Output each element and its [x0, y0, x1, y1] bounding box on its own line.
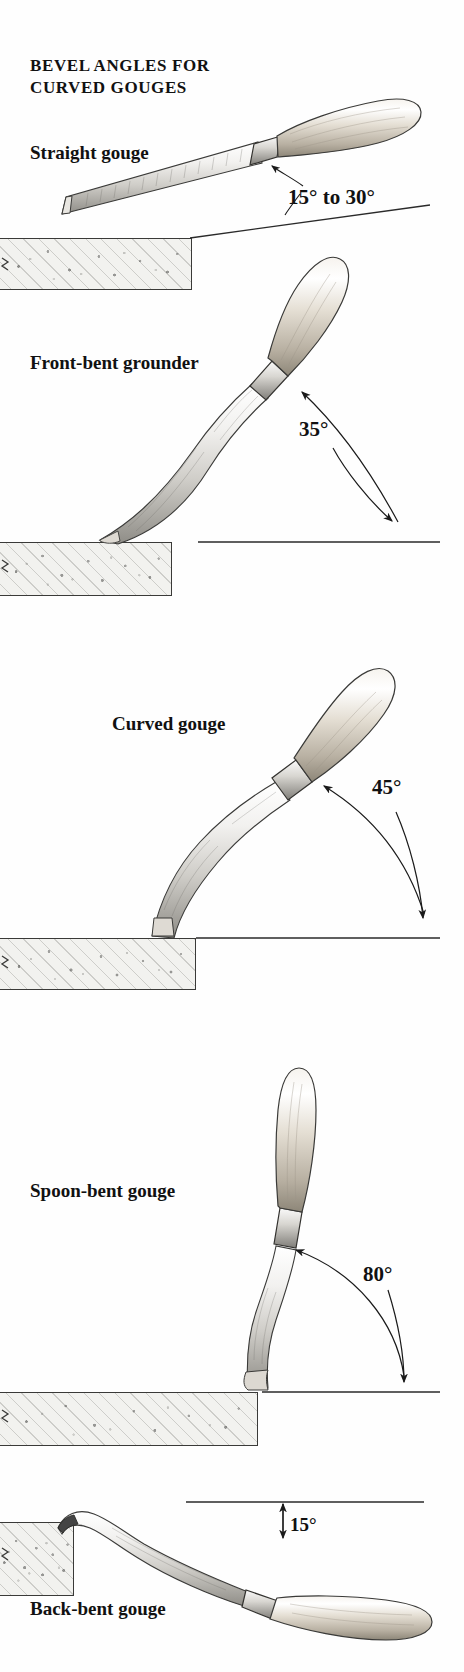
angle-arc-3: [324, 786, 424, 914]
workpiece-block-1: [0, 238, 192, 290]
workpiece-block-4: [0, 1392, 258, 1446]
figure-page: BEVEL ANGLES FOR CURVED GOUGES Straight …: [0, 0, 464, 1672]
blade-hatching-3: [164, 792, 276, 916]
figure-title-line1: BEVEL ANGLES FOR: [30, 55, 210, 77]
tool-spoon-bent-gouge: [244, 1068, 440, 1392]
blade-hatching-4: [254, 1288, 276, 1364]
ferrule-2: [250, 361, 288, 400]
tool-front-bent-grounder: [100, 257, 440, 544]
handle-4: [276, 1068, 316, 1212]
break-symbols: [2, 258, 8, 1560]
angle-straight-gouge: 15° to 30°: [288, 185, 375, 210]
workpiece-block-3: [0, 938, 196, 990]
figure-title-line2: CURVED GOUGES: [30, 77, 210, 99]
blade-hatching-2: [128, 390, 258, 531]
angle-curved-gouge: 45°: [372, 775, 401, 800]
cutting-edge-3: [152, 918, 174, 936]
label-spoon-bent-gouge: Spoon-bent gouge: [30, 1180, 175, 1202]
cutting-edge-4: [244, 1370, 268, 1390]
ferrule-4: [274, 1208, 302, 1248]
angle-arc-2: [302, 392, 398, 522]
handle-1: [277, 99, 421, 157]
handle-grain-1: [290, 108, 408, 149]
blade-2: [100, 384, 268, 544]
handle-grain-5: [290, 1604, 414, 1625]
tool-curved-gouge: [152, 669, 440, 938]
handle-3: [294, 669, 395, 782]
label-front-bent-grounder: Front-bent grounder: [30, 352, 199, 374]
workpiece-block-2: [0, 542, 172, 596]
angle-arc-2b: [333, 448, 392, 521]
blade-3: [152, 782, 290, 938]
ferrule-3: [272, 760, 312, 800]
handle-grain-2: [281, 274, 336, 366]
angle-arc-3b: [396, 812, 423, 918]
tool-straight-gouge: [62, 99, 430, 238]
blade-5: [58, 1512, 248, 1606]
handle-5: [270, 1596, 432, 1640]
angle-spoon-bent-gouge: 80°: [363, 1262, 392, 1287]
handle-2: [268, 257, 349, 376]
label-straight-gouge: Straight gouge: [30, 142, 149, 164]
blade-hatching-5: [112, 1528, 226, 1590]
workpiece-block-5: [0, 1522, 74, 1596]
leader-arrow-1: [272, 166, 303, 186]
label-curved-gouge: Curved gouge: [112, 713, 225, 735]
angle-back-bent-gouge: 15°: [290, 1514, 317, 1536]
cutting-edge-1: [62, 196, 72, 214]
handle-grain-3: [306, 692, 382, 774]
handle-grain-4: [287, 1082, 302, 1206]
ferrule-5: [242, 1590, 278, 1619]
label-back-bent-gouge: Back-bent gouge: [30, 1598, 166, 1620]
angle-arc-4b: [388, 1290, 404, 1382]
ferrule-1: [250, 136, 281, 165]
figure-title: BEVEL ANGLES FOR CURVED GOUGES: [30, 55, 210, 99]
angle-front-bent-grounder: 35°: [299, 417, 328, 442]
blade-4: [247, 1246, 296, 1388]
